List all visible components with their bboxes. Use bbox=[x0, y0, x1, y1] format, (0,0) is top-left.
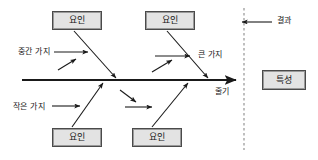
factor-box-bottom-right-label: 요인 bbox=[149, 133, 166, 142]
big-branch-label: 큰 가지 bbox=[198, 51, 223, 59]
factor-box-bottom-right[interactable]: 요인 bbox=[132, 128, 182, 147]
characteristic-box-label: 특성 bbox=[276, 76, 293, 85]
branch-line-top-left bbox=[74, 31, 116, 78]
branch-line-bottom-right bbox=[152, 83, 188, 127]
factor-box-bottom-left-label: 요인 bbox=[69, 133, 86, 142]
factor-box-top-right-label: 요인 bbox=[162, 16, 179, 25]
factor-box-top-left[interactable]: 요인 bbox=[52, 11, 102, 30]
pointer-arrow-bottom-middle-diagonal bbox=[120, 90, 136, 102]
factor-box-top-right[interactable]: 요인 bbox=[145, 11, 195, 30]
fishbone-diagram-canvas: 요인 요인 요인 요인 특성 중간 가지 큰 가지 작은 가지 줄기 결과 bbox=[0, 0, 318, 160]
stem-label: 줄기 bbox=[215, 88, 230, 96]
factor-box-top-left-label: 요인 bbox=[69, 16, 86, 25]
small-branch-label: 작은 가지 bbox=[13, 103, 45, 111]
characteristic-box[interactable]: 특성 bbox=[262, 70, 306, 90]
branch-line-bottom-left bbox=[72, 83, 103, 127]
middle-branch-label: 중간 가지 bbox=[18, 48, 50, 56]
pointer-arrow-middle-branch-diagonal bbox=[58, 59, 76, 70]
result-label: 결과 bbox=[277, 17, 292, 25]
pointer-arrow-big-branch-diagonal bbox=[152, 60, 172, 72]
factor-box-bottom-left[interactable]: 요인 bbox=[52, 128, 102, 147]
